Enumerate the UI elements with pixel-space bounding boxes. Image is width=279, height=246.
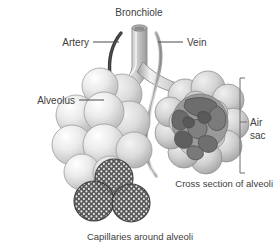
diagram-canvas: Bronchiole Artery Vein Alveolus Air sac … [0, 0, 279, 246]
label-bronchiole: Bronchiole [115, 7, 163, 18]
alveoli-diagram: Bronchiole Artery Vein Alveolus Air sac … [0, 0, 279, 246]
label-artery: Artery [62, 37, 89, 48]
label-air-sac-line2: sac [250, 130, 266, 141]
label-alveolus: Alveolus [37, 95, 75, 106]
label-air-sac-line1: Air [250, 117, 263, 128]
label-capillaries: Capillaries around alveoli [87, 231, 193, 242]
label-cross-section: Cross section of alveoli [175, 178, 273, 189]
label-vein: Vein [187, 37, 206, 48]
